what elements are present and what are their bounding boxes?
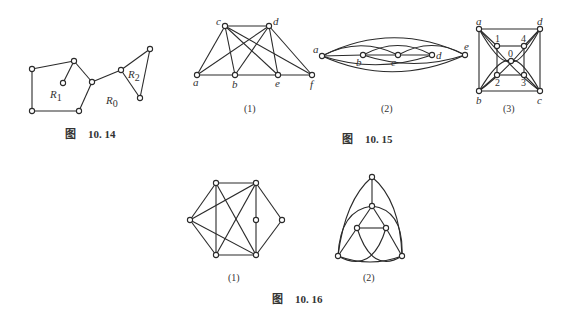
figure-10-14: R1 R2 R0 图 10. 14 [29, 46, 152, 140]
vertex-label-4: 4 [521, 33, 526, 44]
vertex-label-c: c [391, 56, 396, 68]
vertex-label-1: 1 [495, 33, 500, 44]
vertex-d [429, 52, 434, 57]
vertex-label-b: b [476, 94, 482, 106]
vertex [29, 66, 34, 71]
vertex-c [222, 23, 227, 28]
vertex [354, 225, 359, 230]
vertex [383, 225, 388, 230]
vertex [71, 58, 76, 63]
vertex-label-d: d [537, 15, 543, 27]
figure-caption-prefix: 图 [65, 128, 76, 140]
vertex [118, 67, 123, 72]
vertex-a [319, 53, 324, 58]
vertex [213, 180, 218, 185]
vertex [187, 217, 192, 222]
vertex-0 [508, 58, 513, 63]
vertex [213, 252, 218, 257]
vertex-label-b: b [356, 56, 362, 68]
vertex [253, 252, 258, 257]
region-label-r0: R0 [105, 94, 118, 109]
vertex-label-3: 3 [521, 77, 526, 88]
vertices [194, 23, 314, 77]
vertex-e [462, 52, 467, 57]
vertex [253, 180, 258, 185]
subfigure-label: (1) [244, 103, 256, 115]
vertex [89, 79, 94, 84]
vertex [253, 217, 258, 222]
edges [338, 177, 402, 262]
vertex [369, 174, 374, 179]
vertex-label-a: a [313, 43, 319, 55]
vertex-f [309, 72, 314, 77]
vertex [137, 95, 142, 100]
vertex-label-0: 0 [508, 48, 513, 59]
vertex-label-e: e [464, 40, 469, 52]
vertex-d [537, 26, 542, 31]
vertex-label-f: f [310, 78, 315, 90]
vertex [369, 203, 374, 208]
figure-10-15-3: a d b c 1 4 0 2 3 (3) [476, 15, 543, 115]
vertex-c [537, 88, 542, 93]
vertex [76, 108, 81, 113]
vertex-label-c: c [537, 94, 542, 106]
vertices [335, 174, 404, 258]
figure-caption-number: 10. 15 [365, 133, 393, 145]
vertex-label-d: d [436, 49, 442, 61]
vertex [335, 253, 340, 258]
vertex [147, 46, 152, 51]
vertex-label-2: 2 [495, 77, 500, 88]
edges [197, 26, 312, 75]
vertex-label-d: d [273, 15, 279, 27]
figure-canvas: R1 R2 R0 图 10. 14 c d a [0, 0, 573, 314]
figure-caption-prefix: 图 [272, 293, 283, 305]
vertex [29, 108, 34, 113]
figure-caption-number: 10. 14 [88, 128, 116, 140]
vertex-d [266, 23, 271, 28]
vertex-label-e: e [275, 77, 280, 89]
vertex-1 [494, 43, 499, 48]
edges [190, 183, 282, 255]
vertex [279, 217, 284, 222]
vertex-c [395, 52, 400, 57]
vertex [399, 253, 404, 258]
figure-caption-prefix: 图 [342, 133, 353, 145]
figure-10-15-1: c d a b e f (1) [193, 15, 315, 115]
vertex-label-c: c [216, 15, 221, 27]
vertex-label-a: a [476, 15, 482, 27]
subfigure-label: (2) [363, 272, 375, 284]
vertex-b [476, 88, 481, 93]
vertex-4 [521, 43, 526, 48]
vertex-label-b: b [232, 78, 238, 90]
figure-10-16-2: (2) [335, 174, 404, 284]
subfigure-label: (2) [381, 103, 393, 115]
vertex [60, 80, 65, 85]
region-label-r1: R1 [49, 88, 62, 103]
vertex-a [476, 26, 481, 31]
vertex-label-a: a [193, 76, 199, 88]
figure-caption-number: 10. 16 [295, 293, 323, 305]
figure-10-16-1: (1) [187, 180, 284, 284]
vertex-b [232, 72, 237, 77]
subfigure-label: (1) [228, 272, 240, 284]
subfigure-label: (3) [503, 103, 515, 115]
figure-10-15-2: a b c d e (2) [313, 38, 469, 115]
